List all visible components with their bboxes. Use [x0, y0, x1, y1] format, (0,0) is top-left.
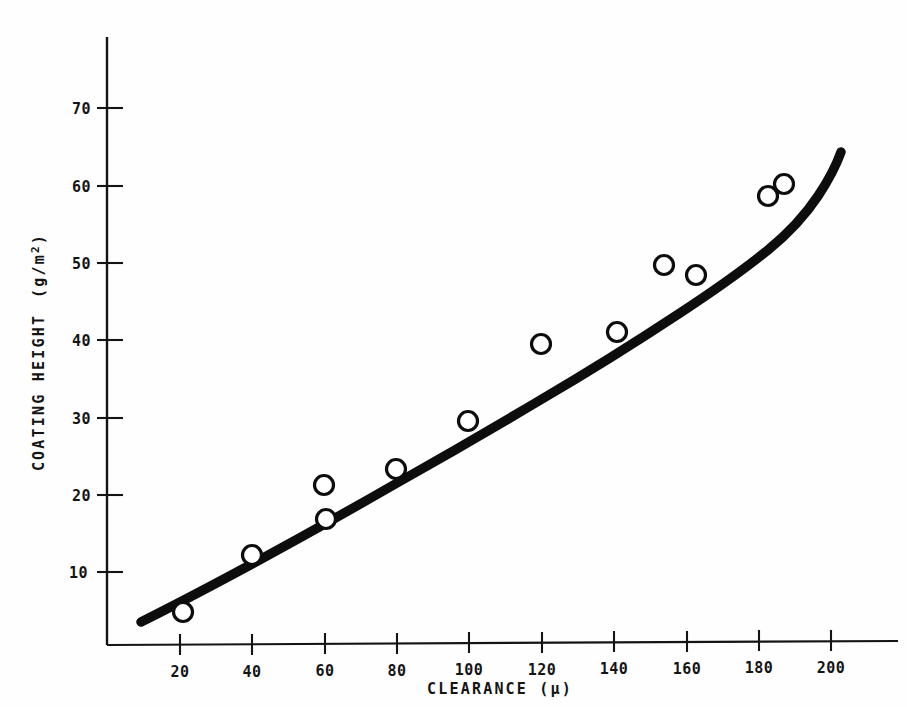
x-tick-label: 120	[528, 661, 557, 679]
data-point	[243, 546, 262, 565]
x-tick-label: 80	[387, 662, 406, 680]
figure-page: 70 60 50 40 30 20 10 20 40 60 80	[0, 0, 907, 707]
y-axis-title-main: COATING HEIGHT	[30, 314, 48, 471]
y-axis-tick-labels: 70 60 50 40 30 20 10	[69, 100, 91, 582]
x-tick-label: 100	[455, 661, 484, 679]
x-axis-tick-labels: 20 40 60 80 100 120 140 160 180 200	[170, 659, 845, 681]
data-point	[317, 510, 336, 529]
x-tick-label: 160	[673, 660, 702, 678]
y-tick-label: 40	[72, 332, 91, 350]
data-point	[655, 256, 674, 275]
data-point	[532, 335, 551, 354]
x-tick-label: 20	[170, 663, 189, 681]
y-tick-label: 50	[72, 255, 91, 273]
data-point	[459, 412, 478, 431]
y-axis-title-close: )	[30, 233, 48, 244]
data-point	[775, 175, 794, 194]
x-tick-label: 40	[242, 663, 261, 681]
y-tick-label: 30	[72, 410, 91, 428]
x-tick-label: 180	[745, 659, 774, 677]
scatter-plot-figure: 70 60 50 40 30 20 10 20 40 60 80	[0, 0, 907, 707]
x-tick-label: 140	[600, 660, 629, 678]
y-tick-label: 10	[69, 564, 88, 582]
y-axis-title-exponent: 2	[29, 244, 42, 253]
data-point	[174, 603, 193, 622]
y-tick-label: 70	[72, 100, 91, 118]
data-point	[608, 323, 627, 342]
svg-text:COATING HEIGHT(g/m2): COATING HEIGHT(g/m2)	[29, 233, 48, 471]
y-tick-label: 60	[72, 178, 91, 196]
x-tick-label: 200	[817, 659, 846, 677]
x-axis-title: CLEARANCE (μ)	[427, 680, 573, 698]
data-point	[315, 476, 334, 495]
x-tick-label: 60	[315, 662, 334, 680]
y-axis-ticks	[97, 108, 123, 572]
data-point	[687, 266, 706, 285]
data-point	[387, 460, 406, 479]
y-axis-title-units: (g/m	[30, 253, 48, 298]
x-axis-spine	[107, 641, 898, 645]
y-axis-title: COATING HEIGHT(g/m2)	[29, 233, 48, 471]
y-tick-label: 20	[72, 487, 91, 505]
